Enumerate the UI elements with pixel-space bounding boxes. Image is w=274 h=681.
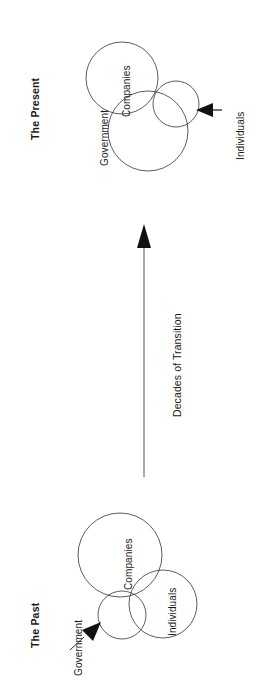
present-individuals-callout-arrow — [196, 103, 222, 117]
past-government-label: Government — [74, 620, 84, 676]
transition-arrow — [137, 224, 151, 477]
diagram-canvas: The Present Companies Government Individ… — [0, 0, 274, 681]
past-companies-label: Companies — [124, 539, 134, 590]
past-venn-group — [78, 513, 197, 639]
past-heading: The Past — [30, 603, 41, 648]
past-individuals-circle — [129, 570, 197, 638]
present-companies-label: Companies — [122, 66, 132, 117]
present-heading: The Present — [30, 78, 41, 140]
past-government-circle — [98, 591, 146, 639]
present-government-label: Government — [100, 110, 110, 166]
past-individuals-label: Individuals — [168, 588, 178, 636]
transition-label: Decades of Transition — [172, 313, 183, 417]
present-individuals-circle — [153, 81, 199, 127]
diagram-artwork — [0, 0, 274, 681]
present-individuals-label: Individuals — [236, 112, 246, 160]
past-companies-circle — [78, 513, 162, 597]
